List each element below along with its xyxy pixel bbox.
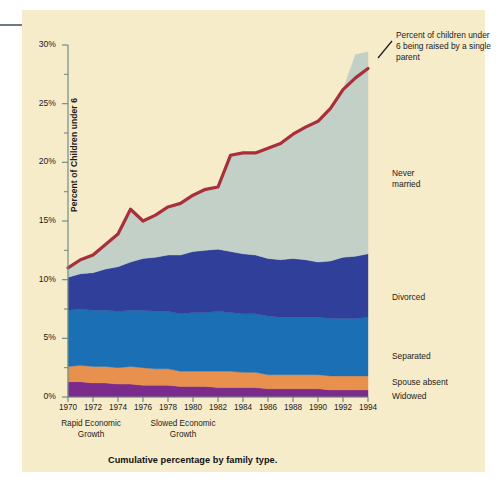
area-band-never_married (68, 52, 368, 277)
x-axis-tick-label: 1994 (348, 403, 388, 412)
era-note-line-2: Growth (128, 429, 238, 440)
figure-caption: Cumulative percentage by family type. (108, 455, 277, 465)
series-label-line: married (392, 179, 420, 190)
era-note-slowed-growth: Slowed EconomicGrowth (128, 418, 238, 440)
y-axis-tick-label: 15% (22, 215, 56, 225)
figure-container: Percent of Children under 6 0%5%10%15%20… (0, 0, 502, 488)
y-axis-tick-label: 5% (22, 332, 56, 342)
y-axis-tick-label: 25% (22, 98, 56, 108)
series-label-separated: Separated (392, 351, 431, 362)
series-label-divorced: Divorced (392, 292, 425, 303)
single-parent-callout: Percent of children under 6 being raised… (396, 30, 492, 64)
series-label-spouse_absent: Spouse absent (392, 377, 448, 388)
series-label-never_married: Nevermarried (392, 168, 420, 190)
era-note-line-1: Slowed Economic (128, 418, 238, 429)
y-axis-tick-label: 30% (22, 39, 56, 49)
series-label-widowed: Widowed (392, 391, 426, 402)
y-axis-title: Percent of Children under 6 (69, 75, 79, 235)
area-band-separated (68, 309, 368, 376)
y-axis-tick-label: 20% (22, 156, 56, 166)
y-axis-tick-label: 10% (22, 274, 56, 284)
series-label-line: Never (392, 168, 420, 179)
stacked-area-chart (0, 0, 502, 488)
callout-leader-line (378, 41, 392, 58)
y-axis-tick-label: 0% (22, 391, 56, 401)
